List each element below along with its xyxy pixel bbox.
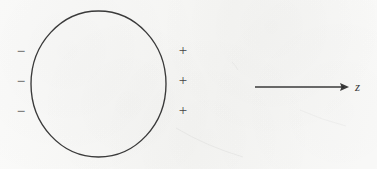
negative-sign-1: − bbox=[14, 44, 28, 59]
z-axis-label: z bbox=[355, 80, 360, 93]
positive-sign-1: + bbox=[176, 43, 190, 58]
positive-sign-2: + bbox=[176, 73, 190, 88]
physics-figure-polarized-sphere: − − − + + + z bbox=[0, 0, 377, 169]
negative-sign-2: − bbox=[14, 74, 28, 89]
z-axis-arrow bbox=[255, 83, 349, 91]
scan-artifacts bbox=[176, 62, 346, 157]
negative-sign-3: − bbox=[14, 104, 28, 119]
positive-sign-3: + bbox=[176, 103, 190, 118]
circle-outline bbox=[31, 11, 166, 157]
